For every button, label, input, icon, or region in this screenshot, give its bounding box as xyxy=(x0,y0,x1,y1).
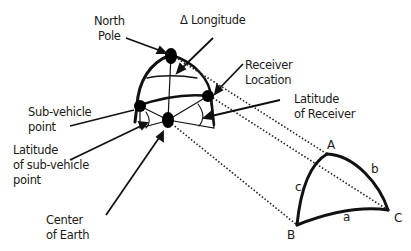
side-a-label: a xyxy=(343,210,350,224)
latitude-of-receiver-label-line2: of Receiver xyxy=(294,107,355,122)
center-of-earth-pointer xyxy=(106,135,161,215)
receiver-location-label: Receiver Location xyxy=(245,58,292,88)
sub-vehicle-point-label-line2: point xyxy=(28,120,91,135)
latitude-sub-vehicle-label-line3: point xyxy=(13,173,89,188)
latitude-of-receiver-label: Latitude of Receiver xyxy=(294,92,355,122)
center-of-earth-dot xyxy=(162,112,174,128)
north-pole-dot xyxy=(165,48,177,64)
center-of-earth-label-line1: Center xyxy=(46,213,89,228)
north-pole-label-line2: Pole xyxy=(94,29,125,44)
latitude-band xyxy=(137,95,210,106)
sub-vehicle-point-label-line1: Sub-vehicle xyxy=(28,105,91,120)
north-pole-label-line1: North xyxy=(94,14,125,29)
center-to-receiver xyxy=(168,96,208,120)
north-pole-label: North Pole xyxy=(94,14,125,44)
vertex-C-label: C xyxy=(394,211,402,225)
triangle-side-b xyxy=(327,154,388,210)
side-c-label: c xyxy=(295,180,302,194)
sub-vehicle-point-label: Sub-vehicle point xyxy=(28,105,91,135)
central-meridian xyxy=(168,55,171,120)
latitude-sub-vehicle-label: Latitude of sub-vehicle point xyxy=(13,143,89,188)
latitude-sub-vehicle-label-line1: Latitude xyxy=(13,143,89,158)
receiver-location-pointer xyxy=(217,64,243,91)
receiver-location-label-line2: Location xyxy=(245,73,292,88)
sub-vehicle-dot xyxy=(134,100,146,112)
vertex-B-label: B xyxy=(287,228,295,242)
receiver-location-label-line1: Receiver xyxy=(245,58,292,73)
receiver-dot xyxy=(202,90,214,102)
latitude-of-receiver-label-line1: Latitude xyxy=(294,92,355,107)
latitude-sub-vehicle-label-line2: of sub-vehicle xyxy=(13,158,89,173)
receiver-latitude-arc xyxy=(198,104,203,126)
center-of-earth-label-line2: of Earth xyxy=(46,228,89,243)
delta-longitude-pointer xyxy=(180,38,213,70)
center-of-earth-label: Center of Earth xyxy=(46,213,89,243)
side-b-label: b xyxy=(371,162,379,176)
delta-longitude-arc xyxy=(147,76,197,78)
latitude-of-receiver-pointer xyxy=(207,100,280,117)
delta-longitude-label: Δ Longitude xyxy=(180,13,245,28)
vertex-A-label: A xyxy=(327,138,335,152)
